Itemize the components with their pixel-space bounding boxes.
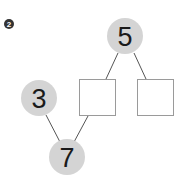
- node-top-circle: 5: [107, 18, 143, 54]
- connector-line: [74, 116, 88, 142]
- node-left-circle: 3: [21, 80, 57, 116]
- answer-box-right[interactable]: [138, 80, 174, 116]
- node-top-value: 5: [117, 22, 132, 52]
- connector-line: [106, 53, 118, 79]
- node-bottom-value: 7: [59, 143, 74, 173]
- node-left-value: 3: [31, 84, 46, 114]
- problem-number-badge: 2: [4, 19, 14, 29]
- connector-line: [46, 115, 60, 142]
- answer-box-middle[interactable]: [80, 80, 116, 116]
- problem-number: 2: [7, 20, 12, 29]
- number-bond-diagram: 2 5 3 7: [0, 0, 184, 193]
- connector-line: [134, 53, 146, 79]
- node-bottom-circle: 7: [49, 139, 85, 175]
